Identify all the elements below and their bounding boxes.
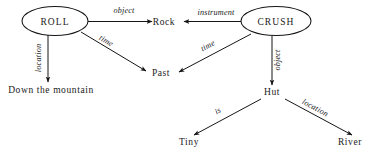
edge-crush-time-past: time — [179, 34, 251, 72]
edge-label-is-hut-tiny: is — [213, 105, 222, 116]
edge-crush-object-hut: object — [272, 36, 282, 85]
node-hut[interactable]: Hut — [264, 87, 280, 97]
semantic-network-diagram: Rock : horizontal --> object Rock : hori… — [0, 0, 368, 155]
node-rock[interactable]: Rock — [153, 17, 175, 27]
node-river[interactable]: River — [338, 137, 362, 147]
node-tiny[interactable]: Tiny — [179, 137, 199, 147]
node-down-the-mountain[interactable]: Down the mountain — [8, 85, 94, 95]
edge-label-object-crush-hut: object — [273, 49, 282, 71]
edge-label-time-roll-past: time — [98, 33, 116, 48]
edge-label-instrument-crush-rock: instrument — [197, 8, 235, 17]
node-crush[interactable]: CRUSH — [241, 7, 311, 36]
node-label-river: River — [338, 137, 362, 147]
node-label-past: Past — [152, 68, 170, 78]
edge-roll-location-mountain: location — [34, 35, 48, 82]
edge-crush-instrument-rock: instrument — [184, 8, 241, 22]
edge-roll-time-past: time — [81, 32, 146, 71]
edge-roll-object-rock: object — [88, 6, 152, 22]
node-label-down-the-mountain: Down the mountain — [8, 85, 94, 95]
edge-label-object-roll-rock: object — [113, 6, 135, 15]
diagram-canvas: Rock : horizontal --> object Rock : hori… — [0, 0, 368, 155]
node-label-roll: ROLL — [40, 17, 69, 27]
node-label-hut: Hut — [264, 87, 280, 97]
edge-hut-is-tiny: is — [194, 99, 261, 135]
edge-line-crush-past — [179, 34, 251, 72]
edge-label-time-crush-past: time — [199, 38, 217, 53]
edge-hut-location-river: location — [285, 97, 352, 135]
edge-label-location-roll-mountain: location — [34, 44, 43, 72]
node-label-tiny: Tiny — [179, 137, 199, 147]
node-past[interactable]: Past — [152, 68, 170, 78]
edge-line-hut-tiny — [194, 99, 261, 135]
node-roll[interactable]: ROLL — [22, 7, 88, 36]
edge-line-roll-past — [81, 32, 146, 71]
node-label-crush: CRUSH — [257, 17, 294, 27]
node-label-rock: Rock — [153, 17, 175, 27]
